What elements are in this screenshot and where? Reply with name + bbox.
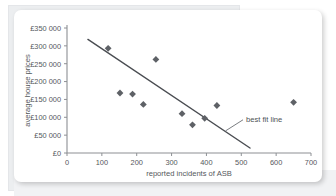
x-tick-label: 0 [65, 158, 69, 167]
data-point [290, 99, 297, 106]
y-tick-label: £100 000 [30, 113, 61, 122]
y-tick-label: £0 [53, 149, 61, 158]
data-point [189, 121, 196, 128]
data-point [117, 90, 124, 97]
y-tick-label: £300 000 [30, 42, 61, 51]
data-point [140, 101, 147, 108]
x-tick-label: 400 [200, 158, 212, 167]
x-tick-label: 200 [131, 158, 143, 167]
y-tick-label: £350 000 [30, 24, 61, 33]
chart-card: £0£50 000£100 000£150 000£200 000£250 00… [14, 10, 322, 182]
y-axis-title: average house prices [23, 54, 32, 127]
x-tick-label: 100 [96, 158, 108, 167]
annotation-label: best fit line [246, 115, 282, 124]
axis-lines [67, 25, 311, 153]
x-tick-label: 300 [165, 158, 177, 167]
y-tick-label: £200 000 [30, 77, 61, 86]
data-point [179, 110, 186, 117]
data-point [213, 102, 220, 109]
x-tick-label: 500 [235, 158, 247, 167]
x-axis-title: reported incidents of ASB [146, 169, 232, 178]
data-point [152, 56, 159, 63]
data-point [129, 91, 136, 98]
x-tick-label: 700 [305, 158, 317, 167]
x-tick-label: 600 [270, 158, 282, 167]
best-fit-line [88, 39, 250, 148]
y-tick-label: £150 000 [30, 95, 61, 104]
annotation-leader-line [226, 120, 243, 131]
scatter-plot: £0£50 000£100 000£150 000£200 000£250 00… [14, 10, 322, 182]
y-tick-label: £50 000 [34, 131, 61, 140]
chart-canvas: £0£50 000£100 000£150 000£200 000£250 00… [14, 10, 322, 182]
y-tick-label: £250 000 [30, 60, 61, 69]
